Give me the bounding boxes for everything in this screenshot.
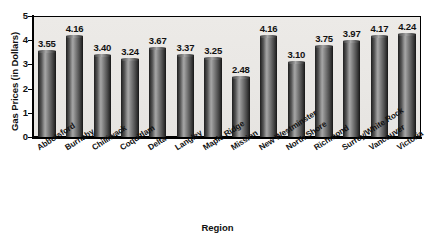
x-tick-label: Langley xyxy=(174,128,204,152)
x-axis-ticks: AbbotsfordBurnabyChilliwackCoquitlamDelt… xyxy=(0,0,435,244)
x-tick-label: Delta xyxy=(146,134,167,152)
bar-chart: Gas Prices (in Dollars) 543210 3.554.163… xyxy=(0,0,435,244)
x-axis-title: Region xyxy=(0,222,435,233)
